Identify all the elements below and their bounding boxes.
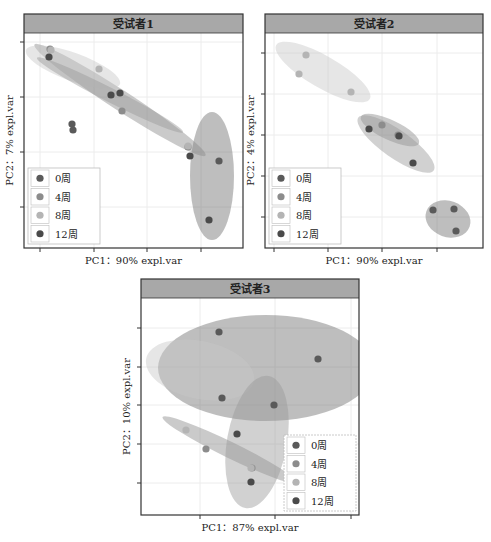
legend-marker xyxy=(36,175,43,182)
panel-2: 受试者2PC1：90% expl.varPC2：4% expl.var0周4周8… xyxy=(245,14,483,266)
legend: 0周4周8周12周 xyxy=(269,168,341,244)
data-point xyxy=(409,159,416,166)
legend-label: 0周 xyxy=(55,173,71,184)
data-point xyxy=(247,464,254,471)
panel-title: 受试者3 xyxy=(230,282,271,296)
legend-marker xyxy=(277,175,284,182)
data-point xyxy=(233,430,240,437)
legend: 0周4周8周12周 xyxy=(284,435,356,511)
panel-3: 受试者3PC1：87% expl.varPC2：10% expl.var0周4周… xyxy=(121,279,374,533)
data-point xyxy=(314,355,321,362)
data-point xyxy=(215,328,222,335)
data-point xyxy=(452,227,459,234)
data-point xyxy=(450,205,457,212)
data-point xyxy=(118,107,125,114)
legend-label: 8周 xyxy=(296,210,312,221)
data-point xyxy=(202,445,209,452)
data-point xyxy=(205,216,212,223)
data-point xyxy=(45,53,52,60)
data-point xyxy=(365,125,372,132)
legend-marker xyxy=(292,442,299,449)
data-point xyxy=(184,142,191,149)
legend-marker xyxy=(277,193,284,200)
data-point xyxy=(47,46,54,53)
legend-label: 0周 xyxy=(296,173,312,184)
x-axis-label: PC1：90% expl.var xyxy=(85,255,182,266)
legend-marker xyxy=(277,230,284,237)
data-point xyxy=(68,120,75,127)
legend-label: 8周 xyxy=(55,210,71,221)
legend-label: 12周 xyxy=(296,229,319,240)
data-point xyxy=(429,206,436,213)
panel-1: 受试者1PC1：90% expl.varPC2：7% expl.var0周4周8… xyxy=(4,14,243,266)
data-point xyxy=(116,89,123,96)
data-point xyxy=(186,152,193,159)
legend-label: 4周 xyxy=(311,459,327,470)
x-axis-label: PC1：87% expl.var xyxy=(202,522,299,533)
data-point xyxy=(378,121,385,128)
panel-title: 受试者1 xyxy=(113,17,154,31)
legend-label: 4周 xyxy=(55,192,71,203)
data-point xyxy=(182,426,189,433)
y-axis-label: PC2：10% expl.var xyxy=(121,358,132,455)
data-point xyxy=(107,91,114,98)
legend-label: 12周 xyxy=(55,229,78,240)
x-axis-label: PC1：90% expl.var xyxy=(326,255,423,266)
y-axis-label: PC2：7% expl.var xyxy=(4,95,15,186)
data-point xyxy=(69,126,76,133)
legend: 0周4周8周12周 xyxy=(28,168,100,244)
data-point xyxy=(218,394,225,401)
legend-marker xyxy=(292,479,299,486)
legend-marker xyxy=(36,212,43,219)
data-point xyxy=(270,401,277,408)
legend-label: 0周 xyxy=(311,440,327,451)
data-point xyxy=(302,51,309,58)
legend-label: 4周 xyxy=(296,192,312,203)
data-point xyxy=(347,88,354,95)
legend-marker xyxy=(36,193,43,200)
legend-label: 12周 xyxy=(311,496,334,507)
legend-marker xyxy=(292,497,299,504)
legend-marker xyxy=(277,212,284,219)
y-axis-label: PC2：4% expl.var xyxy=(245,95,256,186)
data-point xyxy=(395,132,402,139)
legend-label: 8周 xyxy=(311,477,327,488)
data-point xyxy=(95,65,102,72)
data-point xyxy=(295,70,302,77)
data-point xyxy=(247,478,254,485)
pca-figure: 受试者1PC1：90% expl.varPC2：7% expl.var0周4周8… xyxy=(0,0,491,542)
data-point xyxy=(215,157,222,164)
legend-marker xyxy=(292,460,299,467)
legend-marker xyxy=(36,230,43,237)
panel-title: 受试者2 xyxy=(354,17,395,31)
